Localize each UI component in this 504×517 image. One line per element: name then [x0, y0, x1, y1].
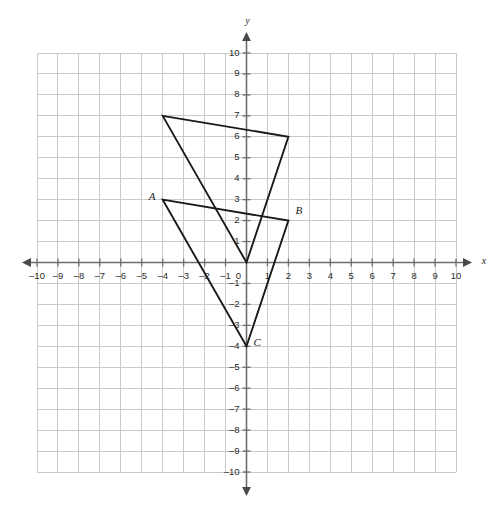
- x-axis-tick-label: –5: [136, 270, 147, 281]
- x-axis-tick-label: 10: [451, 270, 462, 281]
- x-axis-tick-label: 9: [432, 270, 437, 281]
- y-axis-tick-label: –7: [229, 403, 240, 414]
- x-axis-tick-label: 7: [391, 270, 396, 281]
- y-axis-tick-label: –5: [229, 361, 240, 372]
- x-axis-tick-label: –7: [95, 270, 106, 281]
- x-axis-tick-label: –9: [53, 270, 64, 281]
- y-axis-arrow-top-icon: [242, 32, 251, 41]
- y-axis-tick-label: –9: [229, 445, 240, 456]
- y-axis-tick-label: 5: [234, 151, 239, 162]
- x-axis-tick-label: –4: [157, 270, 168, 281]
- x-axis-tick-label: 3: [307, 270, 312, 281]
- vertex-label-a: A: [148, 190, 156, 202]
- vertex-label-c: C: [254, 336, 262, 348]
- x-axis-arrow-right-icon: [463, 258, 472, 267]
- x-axis-tick-label: 4: [328, 270, 333, 281]
- x-axis-label: x: [481, 255, 487, 266]
- x-axis-arrow-left-icon: [22, 258, 31, 267]
- y-axis-tick-label: 2: [234, 214, 239, 225]
- x-axis-tick-label: –10: [29, 270, 45, 281]
- y-axis-tick-label: 6: [234, 130, 239, 141]
- y-axis-tick-label: 9: [234, 67, 239, 78]
- y-axis-label: y: [244, 15, 250, 26]
- vertex-label-b: B: [295, 204, 302, 216]
- y-axis-tick-label: –2: [229, 298, 240, 309]
- coordinate-grid-svg: –10–9–8–7–6–5–4–3–2–1012345678910–10–9–8…: [0, 0, 504, 517]
- y-axis-tick-label: –10: [224, 466, 240, 477]
- y-axis-tick-label: –6: [229, 382, 240, 393]
- x-axis-tick-label: 8: [411, 270, 416, 281]
- x-axis-tick-label: 5: [349, 270, 354, 281]
- y-axis-tick-label: 3: [234, 193, 239, 204]
- y-axis-tick-label: 7: [234, 109, 239, 120]
- x-axis-tick-label: 2: [286, 270, 291, 281]
- y-axis-tick-label: 4: [234, 172, 239, 183]
- y-axis-tick-label: 10: [229, 47, 240, 58]
- x-axis-tick-label: –3: [178, 270, 189, 281]
- y-axis-tick-label: 8: [234, 88, 239, 99]
- x-axis-tick-label: –6: [116, 270, 127, 281]
- y-axis-tick-label: –8: [229, 424, 240, 435]
- x-axis-tick-label: –8: [74, 270, 85, 281]
- y-axis-tick-label: –4: [229, 340, 240, 351]
- x-axis-tick-label: 6: [370, 270, 375, 281]
- y-axis-tick-label: –1: [229, 277, 240, 288]
- coordinate-plane-figure: –10–9–8–7–6–5–4–3–2–1012345678910–10–9–8…: [0, 0, 504, 517]
- y-axis-arrow-bottom-icon: [242, 487, 251, 496]
